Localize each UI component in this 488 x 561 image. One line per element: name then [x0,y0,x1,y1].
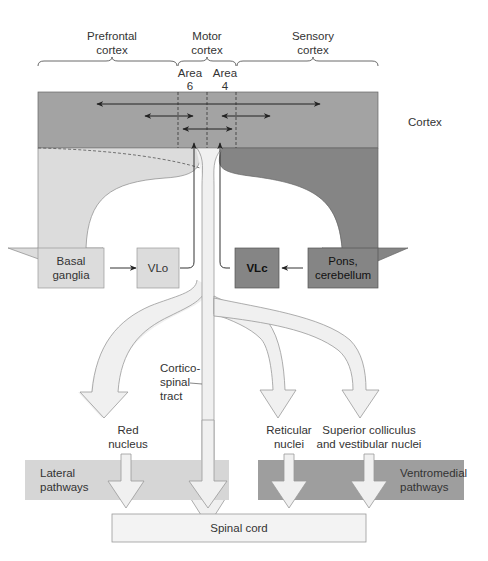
corticospinal-label-1: Cortico- [160,362,200,374]
prefrontal-label-1: Prefrontal [87,30,137,42]
area4-label-1: Area [213,67,238,79]
colliculus-branch [214,298,379,418]
spinal-cord-label: Spinal cord [210,522,268,534]
ventromedial-label-1: Ventromedial [400,467,467,479]
red-nucleus-label-2: nucleus [108,438,148,450]
area6-label-1: Area [178,67,203,79]
sensory-label-1: Sensory [292,30,334,42]
pons-label-2: cerebellum [315,269,371,281]
region-braces [38,57,378,66]
lateral-label-2: pathways [40,481,89,493]
corticospinal-label-3: tract [160,390,183,402]
motor-pathways-diagram: Prefrontal cortex Motor cortex Sensory c… [0,0,488,561]
basal-ganglia-label-2: ganglia [52,269,90,281]
basal-ganglia-box [38,248,104,288]
cortex-band [38,92,378,148]
basal-ganglia-label-1: Basal [57,255,86,267]
prefrontal-brace [38,57,177,66]
red-nucleus-label-1: Red [117,424,138,436]
sensory-brace [237,57,378,66]
prefrontal-label-2: cortex [96,44,128,56]
pons-cerebellum-box [308,248,378,288]
vlc-label: VLc [246,262,268,274]
superior-label-1: Superior colliculus [322,424,416,436]
reticular-label-1: Reticular [266,424,312,436]
corticospinal-label-2: spinal [160,376,190,388]
pons-label-1: Pons, [328,255,357,267]
area6-label-2: 6 [187,80,193,92]
reticular-label-2: nuclei [274,438,304,450]
lateral-label-1: Lateral [40,467,75,479]
motor-label-1: Motor [192,30,222,42]
superior-label-2: and vestibular nuclei [317,438,422,450]
motor-label-2: cortex [191,44,223,56]
ventromedial-label-2: pathways [400,481,449,493]
area4-label-2: 4 [222,80,229,92]
tract-labels: Cortico- spinal tract Red nucleus Reticu… [108,362,421,450]
vlo-label: VLo [148,262,168,274]
cortex-label: Cortex [408,116,442,128]
motor-brace [178,57,236,66]
sensory-label-2: cortex [297,44,329,56]
